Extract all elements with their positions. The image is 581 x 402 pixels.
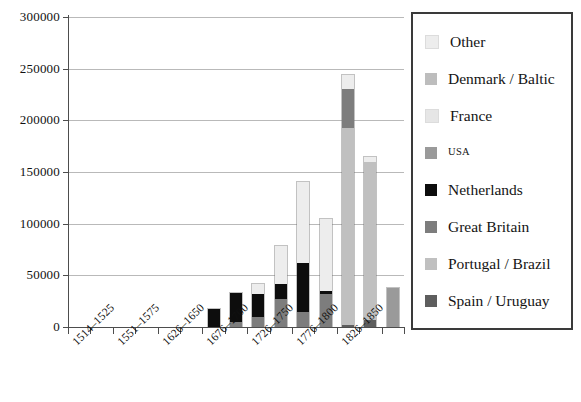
legend-label: Spain / Uruguay (448, 293, 550, 309)
bar-segment (364, 162, 376, 320)
bar (297, 182, 309, 327)
bar-segment (387, 288, 399, 327)
y-tick-mark (63, 69, 68, 70)
legend-item[interactable]: France (413, 97, 571, 134)
legend-item[interactable]: Great Britain (413, 208, 571, 245)
bar (342, 75, 354, 327)
bar-segment (252, 294, 264, 317)
legend-item[interactable]: Other (413, 23, 571, 60)
x-tick-mark (113, 327, 114, 334)
legend-swatch (425, 258, 437, 270)
legend-label: Other (450, 34, 485, 50)
y-tick-mark (63, 275, 68, 276)
bar-segment (252, 284, 264, 294)
x-tick-mark (202, 327, 203, 334)
legend-swatch (425, 35, 439, 49)
x-tick-mark (247, 327, 248, 334)
legend-swatch (425, 184, 437, 196)
y-axis-line (68, 15, 69, 329)
bar (252, 284, 264, 327)
y-tick-label: 300000 (0, 9, 60, 25)
legend-item[interactable]: Spain / Uruguay (413, 282, 571, 319)
legend-label: Portugal / Brazil (448, 256, 550, 272)
bar-segment (297, 263, 309, 312)
bar-segment (297, 182, 309, 263)
legend: OtherDenmark / BalticFranceUSANetherland… (411, 12, 573, 330)
legend-swatch (425, 73, 437, 85)
legend-label: USA (448, 147, 470, 158)
y-tick-mark (63, 224, 68, 225)
y-tick-mark (63, 17, 68, 18)
legend-swatch (425, 109, 439, 123)
x-tick-mark (337, 327, 338, 334)
bar-segment (275, 284, 287, 300)
x-tick-mark (404, 327, 405, 334)
legend-label: Great Britain (448, 219, 529, 235)
bar (387, 288, 399, 327)
x-tick-mark (68, 327, 69, 334)
bar-segment (320, 219, 332, 291)
bar-segment (275, 246, 287, 283)
gridline (68, 69, 404, 70)
y-tick-label: 100000 (0, 216, 60, 232)
legend-label: France (450, 108, 492, 124)
legend-items: OtherDenmark / BalticFranceUSANetherland… (413, 23, 571, 319)
legend-swatch (425, 221, 437, 233)
y-tick-label: 0 (0, 319, 60, 335)
x-tick-mark (382, 327, 383, 334)
legend-swatch (425, 295, 437, 307)
legend-item[interactable]: USA (413, 134, 571, 171)
legend-label: Denmark / Baltic (448, 71, 555, 87)
x-tick-mark (158, 327, 159, 334)
y-tick-mark (63, 120, 68, 121)
bar-segment (342, 128, 354, 325)
legend-swatch (425, 147, 437, 159)
bar-segment (342, 89, 354, 127)
legend-item[interactable]: Netherlands (413, 171, 571, 208)
y-tick-label: 250000 (0, 61, 60, 77)
legend-label: Netherlands (448, 182, 523, 198)
bar-chart: 050000100000150000200000250000300000 151… (0, 0, 581, 402)
bar-segment (320, 291, 332, 294)
y-tick-label: 150000 (0, 164, 60, 180)
legend-item[interactable]: Denmark / Baltic (413, 60, 571, 97)
bar-segment (364, 157, 376, 162)
bar-segment (342, 75, 354, 89)
plot-area (68, 17, 404, 327)
y-tick-label: 200000 (0, 112, 60, 128)
bar (364, 157, 376, 328)
gridline (68, 17, 404, 18)
legend-item[interactable]: Portugal / Brazil (413, 245, 571, 282)
x-tick-mark (292, 327, 293, 334)
y-tick-label: 50000 (0, 267, 60, 283)
y-tick-mark (63, 172, 68, 173)
